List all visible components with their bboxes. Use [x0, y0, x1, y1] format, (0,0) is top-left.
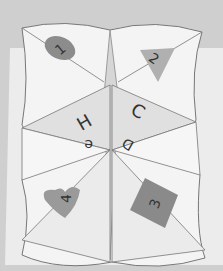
fortune-teller-photo: 1 2 4 3 H C e D: [0, 0, 223, 271]
center-letter-e: e: [84, 137, 93, 153]
flap-number-4: 4: [58, 194, 74, 203]
